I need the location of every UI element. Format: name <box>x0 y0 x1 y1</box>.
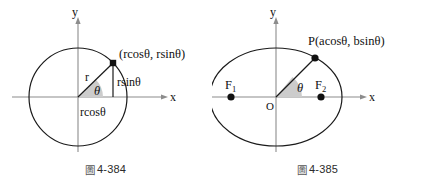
angle-theta-label: θ <box>94 84 100 98</box>
y-axis-group-ellipse <box>273 17 278 152</box>
point-coordinate-label: (rcosθ, rsinθ) <box>119 47 185 61</box>
caption-figure-number: 4-384 <box>97 162 126 177</box>
y-axis-label: y <box>72 5 78 19</box>
y-axis-label: y <box>270 5 276 19</box>
focus-label-f1: F1 <box>225 78 236 94</box>
x-axis-label: x <box>170 90 176 104</box>
figure-sheet: y x (rcosθ, rsinθ) r rsinθ rcosθ θ 圖4-38… <box>0 0 423 193</box>
x-axis-arrow-icon <box>360 94 367 99</box>
caption-figure-number: 4-385 <box>309 162 338 177</box>
focus-label-f1-letter: F <box>225 78 232 92</box>
x-axis-label: x <box>369 90 375 104</box>
origin-label: O <box>266 100 274 112</box>
radius-label: r <box>85 70 89 84</box>
point-marker-p <box>311 54 318 61</box>
opposite-side-label: rsinθ <box>117 75 141 89</box>
x-axis-arrow-icon <box>161 94 168 99</box>
focus-marker-f2 <box>317 93 324 100</box>
figure-panel-circle: y x (rcosθ, rsinθ) r rsinθ rcosθ θ 圖4-38… <box>0 0 211 193</box>
figure-panel-ellipse: y x P(acosθ, bsinθ) O F1 F2 θ 圖4-385 <box>212 0 423 193</box>
focus-marker-f1 <box>227 93 234 100</box>
angle-theta-label: θ <box>297 81 303 95</box>
point-p-label: P(acosθ, bsinθ) <box>308 34 385 48</box>
focus-label-f1-subscript: 1 <box>232 84 236 94</box>
circle-diagram-canvas: y x (rcosθ, rsinθ) r rsinθ rcosθ θ <box>0 0 211 165</box>
adjacent-side-label: rcosθ <box>80 105 106 119</box>
figure-caption-circle: 圖4-384 <box>0 162 211 178</box>
focus-label-f2-letter: F <box>315 78 322 92</box>
caption-figure-mark: 圖 <box>85 163 95 178</box>
y-axis-group-circle <box>75 17 80 152</box>
point-marker-circle <box>110 60 116 66</box>
caption-figure-mark: 圖 <box>297 163 307 178</box>
ellipse-diagram-canvas: y x P(acosθ, bsinθ) O F1 F2 θ <box>212 0 423 165</box>
focus-label-f2-subscript: 2 <box>322 84 326 94</box>
focus-label-f2: F2 <box>315 78 326 94</box>
figure-caption-ellipse: 圖4-385 <box>212 162 423 178</box>
